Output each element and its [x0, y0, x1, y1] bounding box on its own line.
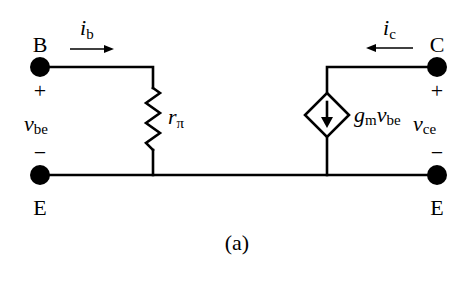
- ib-arrow-right-icon: [70, 45, 114, 53]
- terminal-c-dot: [427, 57, 447, 77]
- terminal-b-label: B: [33, 32, 48, 57]
- terminal-b-dot: [30, 57, 50, 77]
- terminal-e-right-dot: [427, 165, 447, 185]
- arrow-down-icon: [321, 117, 333, 128]
- ib-label: ib: [80, 15, 94, 42]
- vbe-plus-sign: +: [34, 78, 46, 103]
- vce-minus-sign: −: [431, 140, 443, 165]
- collector-wire: [327, 67, 437, 93]
- r-pi-label: rπ: [168, 104, 185, 131]
- vbe-minus-sign: −: [34, 140, 46, 165]
- dependent-current-source: [305, 93, 349, 137]
- figure-caption: (a): [225, 230, 249, 255]
- terminal-e-left-dot: [30, 165, 50, 185]
- vce-label: vce: [413, 111, 436, 137]
- ic-arrow-left-icon: [366, 44, 413, 52]
- vbe-label: vbe: [24, 111, 48, 137]
- terminal-c-label: C: [430, 32, 445, 57]
- resistor-r-pi: [146, 88, 160, 150]
- terminal-e-right-label: E: [430, 195, 443, 220]
- gm-vbe-label: gmvbe: [354, 102, 401, 128]
- base-wire: [40, 67, 153, 88]
- hybrid-pi-circuit: B C E E ib ic + vbe − + vce − rπ gmvbe (…: [0, 0, 475, 286]
- vce-plus-sign: +: [431, 78, 443, 103]
- terminal-e-left-label: E: [33, 195, 46, 220]
- ic-label: ic: [383, 15, 396, 42]
